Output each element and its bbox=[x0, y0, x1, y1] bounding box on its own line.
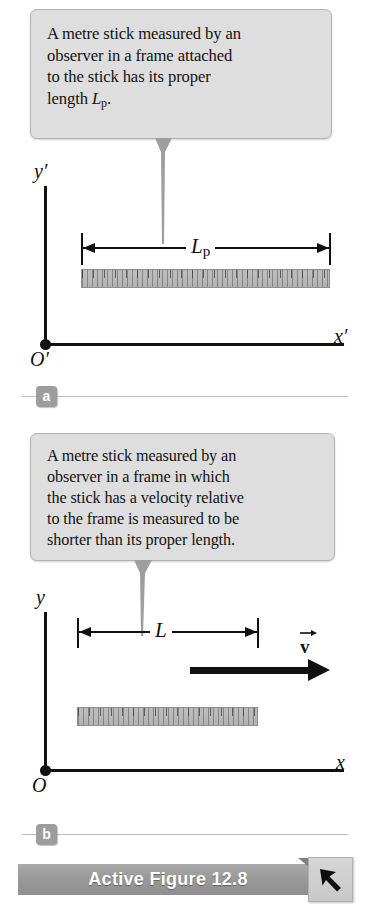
dimension-label-a-sub: p bbox=[203, 243, 211, 259]
x-axis-a bbox=[44, 343, 344, 346]
origin-label-b: O bbox=[32, 774, 46, 797]
x-axis-label-a: x′ bbox=[334, 325, 347, 348]
callout-b-line-5: shorter than its proper length. bbox=[47, 530, 322, 551]
metre-stick-a bbox=[81, 269, 330, 288]
dimension-label-b: L bbox=[150, 620, 172, 641]
callout-a-line-4-var: L bbox=[92, 89, 101, 108]
callout-box-b: A metre stick measured by an observer in… bbox=[30, 433, 335, 561]
origin-label-a: O′ bbox=[30, 348, 49, 371]
dimension-label-a-var: L bbox=[191, 234, 203, 258]
cursor-arrow-icon bbox=[316, 865, 346, 895]
panel-separator-b bbox=[22, 834, 348, 835]
velocity-arrow-head-icon bbox=[308, 659, 330, 681]
velocity-vector-label: v bbox=[300, 637, 310, 656]
panel-badge-b: b bbox=[36, 824, 57, 845]
x-axis-b bbox=[44, 769, 344, 772]
active-figure-title: Active Figure 12.8 bbox=[88, 869, 247, 890]
callout-a-line-3: to the stick has its proper bbox=[47, 66, 317, 88]
vector-arrow-overbar-icon bbox=[300, 628, 317, 636]
callout-b-line-3: the stick has a velocity relative bbox=[47, 488, 322, 509]
y-axis-label-b: y bbox=[36, 586, 45, 609]
velocity-label-text: v bbox=[300, 636, 310, 657]
callout-a-pointer-tail bbox=[148, 138, 188, 246]
dimension-cap-right-a bbox=[329, 233, 331, 265]
y-axis-a bbox=[44, 186, 47, 346]
panel-separator-a bbox=[22, 396, 348, 397]
callout-a-line-2: observer in a frame attached bbox=[47, 45, 317, 67]
callout-a-line-4: length Lp. bbox=[47, 88, 317, 114]
callout-a-line-1: A metre stick measured by an bbox=[47, 23, 317, 45]
figure-container: A metre stick measured by an observer in… bbox=[0, 0, 370, 904]
dimension-arrowhead-left-a bbox=[83, 243, 95, 253]
dimension-arrowhead-left-b bbox=[79, 627, 91, 637]
callout-b-line-4: to the frame is measured to be bbox=[47, 509, 322, 530]
velocity-arrow-shaft bbox=[190, 667, 310, 674]
active-figure-banner[interactable]: Active Figure 12.8 bbox=[18, 864, 318, 895]
dimension-label-a: Lp bbox=[186, 236, 215, 259]
dimension-arrowhead-right-a bbox=[317, 243, 329, 253]
metre-stick-b bbox=[77, 707, 258, 726]
x-axis-label-b: x bbox=[336, 751, 345, 774]
dimension-arrowhead-right-b bbox=[245, 627, 257, 637]
callout-a-line-4-post: . bbox=[107, 89, 111, 108]
callout-box-a: A metre stick measured by an observer in… bbox=[30, 9, 332, 139]
y-axis-label-a: y′ bbox=[34, 160, 47, 183]
dimension-cap-right-b bbox=[257, 618, 259, 648]
callout-a-line-4-pre: length bbox=[47, 89, 92, 108]
y-axis-b bbox=[44, 612, 47, 772]
callout-b-line-1: A metre stick measured by an bbox=[47, 446, 322, 467]
panel-badge-a: a bbox=[36, 386, 57, 407]
callout-b-line-2: observer in a frame in which bbox=[47, 467, 322, 488]
active-figure-launch-button[interactable] bbox=[308, 857, 353, 902]
